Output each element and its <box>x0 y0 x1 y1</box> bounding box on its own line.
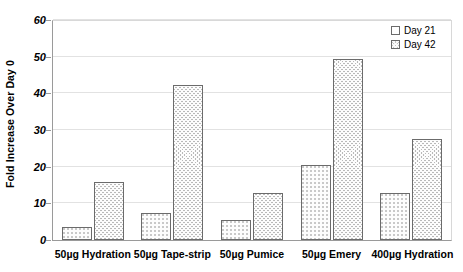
bar-day42 <box>173 85 203 240</box>
x-axis: 50µg Hydration50µg Tape-strip50µg Pumice… <box>53 248 451 270</box>
x-tick-label: 400µg Hydration <box>371 248 451 260</box>
legend-swatch-icon-day42 <box>391 40 400 49</box>
bar-group <box>371 20 451 240</box>
legend-label-day42: Day 42 <box>404 39 436 50</box>
bar-day42 <box>94 182 124 240</box>
y-tick-label: 60 <box>14 14 46 26</box>
legend-label-day21: Day 21 <box>404 25 436 36</box>
legend: Day 21 Day 42 <box>391 25 436 50</box>
y-tick-label: 0 <box>14 234 46 246</box>
y-tick-label: 10 <box>14 197 46 209</box>
bar-group <box>212 20 292 240</box>
y-tick-mark <box>46 240 51 241</box>
y-tick-label: 40 <box>14 87 46 99</box>
bars-layer <box>53 20 451 240</box>
y-tick-mark <box>46 93 51 94</box>
y-tick-mark <box>46 20 51 21</box>
y-tick-label: 20 <box>14 161 46 173</box>
bar-day21 <box>62 227 92 240</box>
bar-chart: Fold Increase Over Day 0 0102030405060 5… <box>0 0 463 272</box>
y-tick-label: 50 <box>14 51 46 63</box>
y-tick-label: 30 <box>14 124 46 136</box>
bar-day42 <box>412 139 442 240</box>
bar-group <box>292 20 372 240</box>
bar-day21 <box>301 165 331 240</box>
legend-item-day21: Day 21 <box>391 25 436 36</box>
legend-swatch-icon-day21 <box>391 26 400 35</box>
x-tick-label: 50µg Pumice <box>212 248 292 260</box>
bar-day21 <box>380 193 410 240</box>
y-tick-mark <box>46 130 51 131</box>
bar-group <box>53 20 133 240</box>
y-tick-mark <box>46 57 51 58</box>
bar-day21 <box>141 213 171 240</box>
legend-item-day42: Day 42 <box>391 39 436 50</box>
bar-day42 <box>333 59 363 240</box>
x-tick-label: 50µg Hydration <box>53 248 133 260</box>
bar-day21 <box>221 220 251 240</box>
x-tick-label: 50µg Emery <box>292 248 372 260</box>
y-tick-mark <box>46 203 51 204</box>
bar-day42 <box>253 193 283 240</box>
x-tick-label: 50µg Tape-strip <box>133 248 213 260</box>
bar-group <box>133 20 213 240</box>
y-tick-mark <box>46 167 51 168</box>
